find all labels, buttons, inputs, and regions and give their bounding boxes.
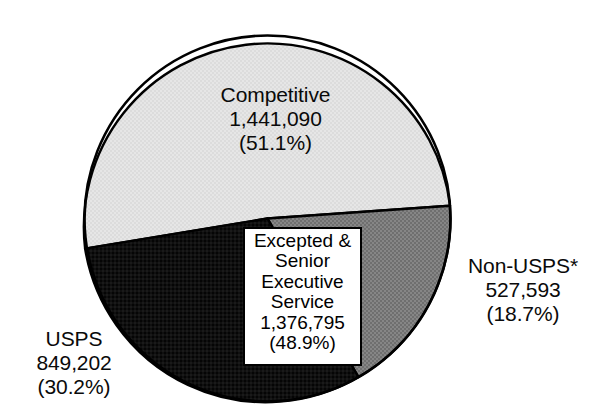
annotation-percent: (48.9%) xyxy=(245,333,360,353)
slice-label-competitive-value: 1,441,090 xyxy=(168,107,383,131)
slice-label-competitive-name: Competitive xyxy=(168,83,383,107)
annotation-line-2: Senior xyxy=(245,251,360,271)
slice-label-non-usps-percent: (18.7%) xyxy=(452,302,594,326)
pie-chart: Competitive 1,441,090 (51.1%) Non-USPS* … xyxy=(0,0,597,417)
slice-label-non-usps: Non-USPS* 527,593 (18.7%) xyxy=(452,254,594,326)
slice-label-usps: USPS 849,202 (30.2%) xyxy=(6,327,142,399)
annotation-line-3: Executive xyxy=(245,272,360,292)
slice-label-competitive-percent: (51.1%) xyxy=(168,131,383,155)
slice-label-usps-name: USPS xyxy=(6,327,142,351)
slice-label-competitive: Competitive 1,441,090 (51.1%) xyxy=(168,83,383,155)
annotation-line-1: Excepted & xyxy=(245,231,360,251)
slice-label-usps-percent: (30.2%) xyxy=(6,375,142,399)
annotation-line-4: Service xyxy=(245,292,360,312)
slice-label-usps-value: 849,202 xyxy=(6,351,142,375)
annotation-excepted-senior-executive-service: Excepted & Senior Executive Service 1,37… xyxy=(243,227,362,366)
slice-label-non-usps-value: 527,593 xyxy=(452,278,594,302)
annotation-value: 1,376,795 xyxy=(245,313,360,333)
slice-label-non-usps-name: Non-USPS* xyxy=(452,254,594,278)
